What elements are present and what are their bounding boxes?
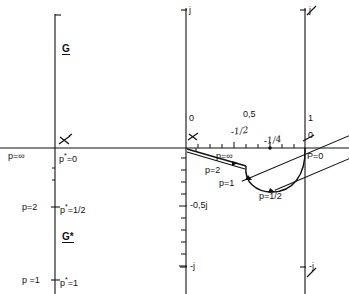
label-p-1: p =1 — [22, 276, 40, 285]
axis-label-g-star-text: G* — [62, 231, 74, 243]
label-p-star-0-rest: =0 — [67, 154, 77, 164]
origin-cross-middle — [188, 133, 198, 140]
label-p-star-half: p*=1/2 — [60, 203, 86, 215]
middle-axis-label-zero: 0 — [189, 114, 194, 123]
label-p-infinity: p=∞ — [8, 152, 25, 161]
middle-axis-label-j: j — [189, 6, 191, 15]
origin-cross-left — [59, 134, 72, 144]
label-p-star-half-rest: =1/2 — [68, 205, 86, 215]
curve-label-p-2: p=2 — [205, 166, 220, 175]
figure-canvas: G G* p=∞ p*=0 p=2 p*=1/2 p =1 p*=1 j 0 -… — [0, 0, 349, 294]
axis-label-g: G — [62, 44, 70, 55]
locus-arc — [246, 148, 305, 192]
label-p-2: p=2 — [22, 203, 37, 212]
curve-label-p-infinity: p=∞ — [216, 152, 233, 161]
axis-marker-dot — [268, 146, 272, 150]
curve-label-p-1: p=1 — [219, 179, 234, 188]
middle-axis-label-half-j: -0,5j — [190, 201, 208, 210]
label-p-star-1: p*=1 — [60, 276, 78, 288]
right-axis-label-point-p0: P=0 — [307, 152, 323, 161]
right-axis-j-strikes — [307, 6, 316, 277]
middle-axis-label-minus-j: -j — [190, 262, 195, 271]
label-p-star-0: p*=0 — [59, 152, 77, 164]
axis-label-g-star: G* — [62, 232, 74, 242]
diagram-svg — [0, 0, 349, 294]
curve-label-p-half: p=1/2 — [259, 192, 282, 201]
right-axis-label-j: j — [309, 6, 311, 15]
label-p-star-1-rest: =1 — [68, 278, 78, 288]
ruler-label-half: 0,5 — [243, 110, 256, 119]
right-axis-label-minus-j: -j — [309, 262, 314, 271]
